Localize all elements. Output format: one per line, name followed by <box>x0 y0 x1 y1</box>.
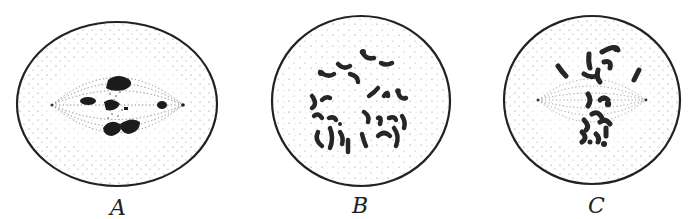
panel-label-c: C <box>588 193 605 218</box>
cell-c: C <box>504 16 680 218</box>
panel-label-b: B <box>351 193 368 218</box>
cell-a: A <box>17 22 217 219</box>
cell-division-figure: A <box>0 0 698 219</box>
cell-b-membrane <box>272 16 450 186</box>
panel-label-a: A <box>108 195 126 219</box>
cell-b: B <box>272 16 450 218</box>
